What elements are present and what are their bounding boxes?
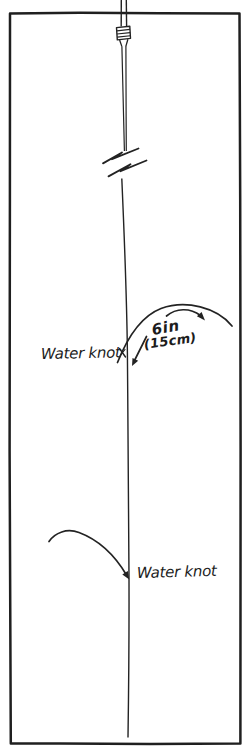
water-knot-label-upper: Water knot [41,344,121,362]
nail-knot-icon [117,26,131,46]
leader-tippet-line [122,179,129,738]
line-break-icon [103,149,147,177]
diagram-artwork [0,0,250,753]
illustration-canvas: Water knot 6in (15cm) Water knot [0,0,250,753]
frame-border [10,13,241,744]
lower-dropper-arc-arrow [49,531,129,580]
leader-butt-line [122,46,126,151]
water-knot-label-lower: Water knot [137,563,217,582]
